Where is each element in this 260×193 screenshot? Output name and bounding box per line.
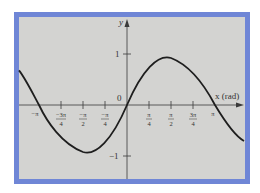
x-tick-pi2-den: 2 [169,120,172,127]
x-tick-neg-3pi4-num: −3π [56,111,67,118]
x-tick-neg-pi2-num: −π [80,111,88,118]
y-axis-arrow-icon [125,19,130,27]
y-tick-label-1: 1 [115,49,120,59]
x-axis-arrow-icon [236,103,244,108]
x-tick-pi2-num: π [169,111,173,118]
x-tick-neg-3pi4-den: 4 [59,120,63,127]
x-tick-neg-pi2-den: 2 [81,120,84,127]
x-tick-3pi4-num: 3π [190,111,197,118]
y-tick-label-neg1: −1 [109,151,119,161]
sine-chart: y 1 −1 0 x (rad) −π −3π 4 −π 2 −π 4 π 4 … [0,0,260,193]
x-tick-neg-pi4-den: 4 [103,120,107,127]
x-tick-pi: π [211,110,215,117]
x-tick-pi4-den: 4 [147,120,151,127]
x-tick-3pi4-den: 4 [191,120,195,127]
x-tick-neg-pi: −π [32,110,40,117]
origin-label: 0 [117,93,122,103]
x-tick-pi4-num: π [147,111,151,118]
x-tick-neg-pi4-num: −π [102,111,110,118]
x-axis-label: x (rad) [215,91,239,101]
y-axis-label: y [118,17,123,27]
